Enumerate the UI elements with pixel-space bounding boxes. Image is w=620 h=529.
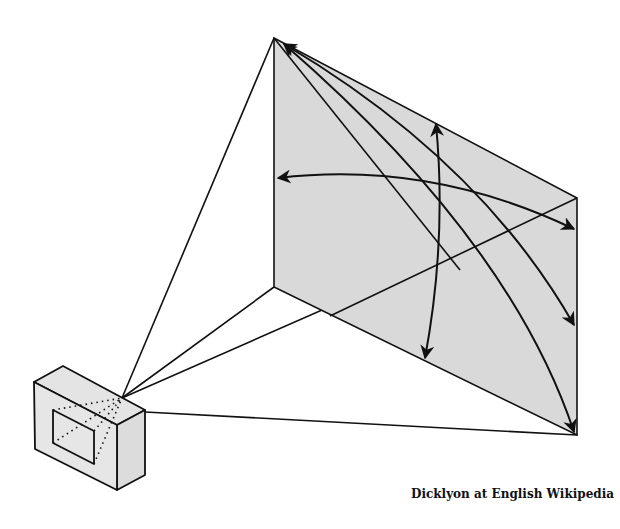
camera-right-face [117, 410, 145, 490]
field-of-view-diagram [0, 0, 620, 529]
projection-screen [274, 38, 577, 435]
image-credit: Dicklyon at English Wikipedia [411, 487, 614, 501]
